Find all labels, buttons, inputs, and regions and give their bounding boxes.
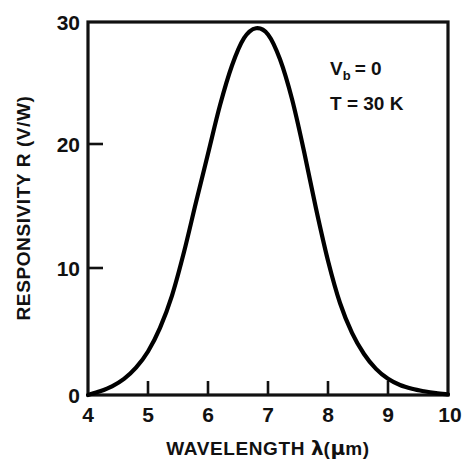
x-axis-title-paren-close: ) xyxy=(363,438,370,459)
x-tick-labels: 4 5 6 7 8 9 10 xyxy=(82,403,462,426)
x-axis-title: WAVELENGTH λ(μm) xyxy=(166,436,369,460)
axes-frame-rect xyxy=(88,22,448,395)
y-tick-labels: 0 10 20 30 xyxy=(57,11,80,407)
temperature-annotation: T = 30 K xyxy=(330,93,404,114)
x-tick-label-4: 4 xyxy=(82,403,94,426)
responsivity-curve xyxy=(88,28,448,395)
y-axis-title: RESPONSIVITY R (V/W) xyxy=(13,96,34,321)
mu-symbol: μ xyxy=(330,436,345,460)
y-tick-label-20: 20 xyxy=(57,133,80,156)
x-tick-label-9: 9 xyxy=(382,403,394,426)
bias-subscript-text: b xyxy=(343,68,351,83)
responsivity-chart-figure: 4 5 6 7 8 9 10 0 10 20 30 RESPONSIVITY R… xyxy=(0,0,473,470)
x-axis-title-text: WAVELENGTH λ(μm) xyxy=(166,436,369,460)
bias-value-text: = 0 xyxy=(355,58,382,79)
x-axis-title-unit: m xyxy=(345,438,363,459)
bias-annotation: Vb= 0 xyxy=(330,58,382,83)
x-tick-label-10: 10 xyxy=(438,403,461,426)
x-tick-label-7: 7 xyxy=(262,403,274,426)
x-tick-label-5: 5 xyxy=(142,403,154,426)
bias-symbol-text: V xyxy=(330,58,343,79)
x-axis-title-prefix: WAVELENGTH xyxy=(166,438,311,459)
y-axis-title-text: RESPONSIVITY R (V/W) xyxy=(13,96,34,321)
plot-annotations: Vb= 0 T = 30 K xyxy=(330,58,404,114)
x-tick-label-6: 6 xyxy=(202,403,214,426)
data-series-responsivity xyxy=(88,28,448,395)
y-tick-label-10: 10 xyxy=(57,257,80,280)
x-tick-label-8: 8 xyxy=(322,403,334,426)
x-axis-ticks xyxy=(148,381,388,395)
chart-canvas: 4 5 6 7 8 9 10 0 10 20 30 RESPONSIVITY R… xyxy=(0,0,473,470)
y-tick-label-0: 0 xyxy=(68,384,80,407)
y-tick-label-30: 30 xyxy=(57,11,80,34)
y-axis-ticks xyxy=(88,144,103,268)
lambda-symbol: λ xyxy=(311,436,324,460)
x-axis-title-paren-open: ( xyxy=(324,438,331,459)
plot-frame xyxy=(88,22,448,395)
